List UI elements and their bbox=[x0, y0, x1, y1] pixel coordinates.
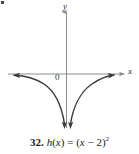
caption-expression-variable: x bbox=[80, 136, 85, 148]
caption-exponent: 2 bbox=[106, 135, 110, 143]
origin-label: 0 bbox=[55, 73, 60, 82]
caption-problem-number: 32. bbox=[30, 136, 44, 148]
graph-area: y x 0 bbox=[0, 0, 139, 134]
curve-left-branch bbox=[14, 75, 65, 124]
caption-equals-sign: = bbox=[67, 136, 73, 148]
caption-expression-operator: − bbox=[87, 136, 93, 148]
figure-container: y x 0 32.h(x) = (x − 2)2 bbox=[0, 0, 139, 154]
caption-paren-close-arg: ) bbox=[61, 136, 65, 148]
coordinate-plane-graphic bbox=[0, 0, 139, 134]
curve-right-branch bbox=[71, 75, 115, 124]
y-axis-label: y bbox=[63, 2, 67, 11]
figure-caption: 32.h(x) = (x − 2)2 bbox=[0, 136, 139, 148]
x-axis-label: x bbox=[128, 67, 132, 76]
